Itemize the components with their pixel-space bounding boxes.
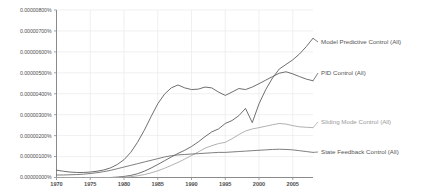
series-leader-lines <box>313 38 318 152</box>
series-label: State Feedback Control (All) <box>321 148 399 155</box>
y-tick-label: 0.00000700% <box>20 28 52 34</box>
series-label: PID Control (All) <box>321 69 366 76</box>
y-tick-label: 0.00000300% <box>20 112 52 118</box>
series-leader-line <box>313 38 318 42</box>
ngram-line-chart: 0.00000000%0.00000100%0.00000200%0.00000… <box>0 0 421 194</box>
x-tick-label: 1970 <box>50 181 62 187</box>
series-label: Model Predictive Control (All) <box>321 38 401 45</box>
series-leader-line <box>313 122 318 128</box>
y-tick-label: 0.00000800% <box>20 7 52 13</box>
y-axis-tick-labels: 0.00000000%0.00000100%0.00000200%0.00000… <box>20 7 52 181</box>
y-tick-label: 0.00000400% <box>20 91 52 97</box>
series-label: Sliding Mode Control (All) <box>321 118 391 125</box>
chart-canvas: 0.00000000%0.00000100%0.00000200%0.00000… <box>0 0 421 194</box>
x-axis-tick-labels: 19701975198019851990199520002005 <box>50 181 299 187</box>
y-tick-label: 0.00000000% <box>20 174 52 180</box>
y-tick-label: 0.00000500% <box>20 70 52 76</box>
x-tick-label: 1985 <box>152 181 164 187</box>
gridlines-group <box>57 10 314 178</box>
x-tick-label: 2000 <box>253 181 265 187</box>
y-tick-label: 0.00000200% <box>20 133 52 139</box>
y-tick-label: 0.00000100% <box>20 153 52 159</box>
x-tick-label: 2005 <box>287 181 299 187</box>
y-tick-label: 0.00000600% <box>20 49 52 55</box>
x-tick-label: 1995 <box>219 181 231 187</box>
series-labels-group: Model Predictive Control (All)PID Contro… <box>321 38 401 155</box>
x-tick-label: 1975 <box>84 181 96 187</box>
x-tick-label: 1980 <box>118 181 130 187</box>
series-leader-line <box>313 73 318 81</box>
x-tick-label: 1990 <box>185 181 197 187</box>
data-series-line <box>57 72 314 173</box>
